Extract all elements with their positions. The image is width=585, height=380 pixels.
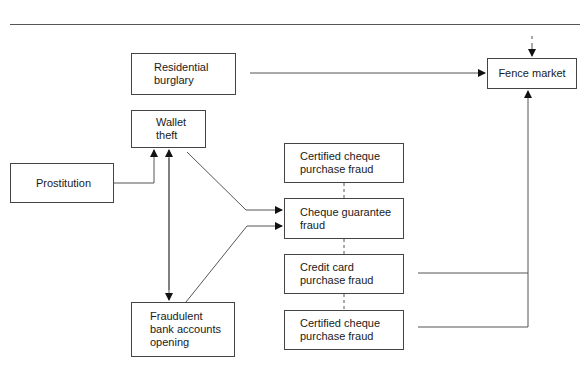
- node-fraudulent-bank-accounts: Fraudulent bank accounts opening: [131, 302, 235, 357]
- node-cheque-guarantee: Cheque guarantee fraud: [284, 198, 404, 239]
- node-label: Credit card purchase fraud: [300, 261, 373, 287]
- node-residential-burglary: Residential burglary: [131, 53, 236, 95]
- node-label: Residential burglary: [154, 61, 208, 87]
- node-wallet-theft: Wallet theft: [131, 110, 206, 148]
- node-label: Wallet theft: [156, 116, 186, 142]
- node-label: Fence market: [498, 67, 565, 80]
- node-certified-cheque-2: Certified cheque purchase fraud: [284, 310, 404, 350]
- node-label: Certified cheque purchase fraud: [300, 150, 380, 176]
- node-prostitution: Prostitution: [10, 163, 114, 203]
- node-fence-market: Fence market: [487, 58, 577, 89]
- node-certified-cheque-1: Certified cheque purchase fraud: [284, 143, 404, 183]
- node-credit-card: Credit card purchase fraud: [284, 254, 404, 294]
- node-label: Prostitution: [36, 177, 91, 190]
- node-label: Certified cheque purchase fraud: [300, 317, 380, 343]
- node-label: Cheque guarantee fraud: [300, 206, 391, 232]
- node-label: Fraudulent bank accounts opening: [150, 310, 221, 349]
